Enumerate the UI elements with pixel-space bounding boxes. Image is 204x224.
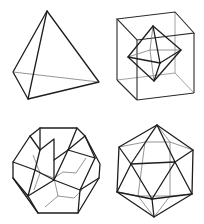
platonic-solids-figure [0, 0, 204, 224]
tetrahedron [13, 11, 99, 99]
dodecahedron [13, 128, 100, 213]
icosahedron [117, 125, 193, 217]
cube-with-octahedron [117, 12, 194, 100]
